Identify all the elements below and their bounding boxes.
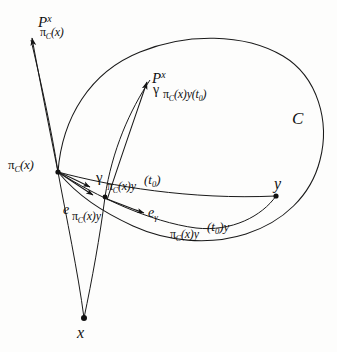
geo-pt-gamma: γ [96, 169, 103, 185]
e-pi-arg: (x)y [83, 209, 101, 223]
label-geodesic-point-time: (t0) [144, 173, 161, 188]
point-x [81, 315, 87, 321]
label-geodesic-curve: πC(x)y [170, 228, 199, 242]
label-parallel-transport-pi-subscript: πC(x) [40, 26, 64, 40]
parallel-transport-pi-arrow [32, 38, 58, 172]
pt-gamma-time: (t [192, 87, 199, 101]
proj-arg: (x) [20, 157, 34, 172]
geo-pt-time-open: (t [144, 172, 152, 187]
curve-x-to-gamma-t0 [84, 80, 150, 318]
pt-gamma-sub-gamma: γ [153, 82, 159, 97]
label-geodesic-point-gamma: γ [96, 170, 103, 185]
geo-pt-time-close: ) [156, 172, 160, 187]
geo-curve-time-open: (t [207, 219, 215, 234]
point-projection [55, 169, 60, 174]
geo-curve-arg: (x)y [181, 227, 199, 241]
tangent-vector-pi-arrow [58, 172, 93, 195]
label-point-y: y [274, 176, 281, 192]
pt-pi-superscript: x [47, 13, 51, 24]
geometry-figure [0, 0, 337, 352]
label-unit-vector-gamma: eγ [148, 206, 158, 222]
label-geodesic-curve-time: (t0)y [207, 220, 229, 235]
label-unit-vector-pi-sub: πC(x)y [72, 210, 101, 224]
label-geodesic-point-sub: πC(x)y [107, 180, 136, 194]
label-unit-vector-pi: e [63, 203, 69, 217]
label-region-C: C [292, 110, 303, 127]
label-parallel-transport-gamma-tail: πC(x)y(t0) [163, 88, 206, 102]
label-projection-point: πC(x) [8, 158, 34, 173]
geo-pt-arg: (x)y [118, 179, 136, 193]
point-y-text: y [274, 175, 281, 192]
pt-gamma-time-close: ) [203, 87, 207, 101]
label-parallel-transport-gamma-sub: γ [153, 83, 159, 97]
tangent-vector-to-gamma-t0-arrow [58, 172, 90, 187]
e-pi-base: e [63, 202, 69, 217]
curve-x-to-projection [31, 40, 84, 318]
tangent-vector-gamma-arrow [107, 199, 144, 213]
e-gamma-sub: γ [154, 212, 158, 222]
point-x-text: x [77, 324, 84, 341]
point-y [273, 193, 278, 198]
pt-gamma-superscript: x [161, 69, 165, 80]
geo-curve-time-close: )y [219, 219, 229, 234]
point-gamma-t0 [103, 195, 108, 200]
label-point-x: x [77, 325, 84, 341]
pt-pi-sub-arg: (x) [51, 25, 64, 39]
region-c-text: C [292, 109, 303, 128]
pt-gamma-arg: (x)y [174, 87, 192, 101]
